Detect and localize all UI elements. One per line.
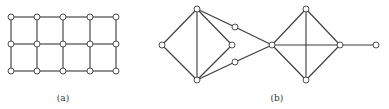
figure-a-grid-graph: (a) bbox=[8, 14, 119, 103]
graph-node bbox=[194, 6, 200, 12]
graph-node bbox=[232, 24, 238, 30]
graph-node bbox=[8, 14, 14, 20]
graph-edge bbox=[306, 45, 340, 80]
graph-edge bbox=[235, 45, 272, 62]
graph-node bbox=[87, 68, 93, 74]
graph-node bbox=[194, 77, 200, 83]
graph-node bbox=[34, 14, 40, 20]
figure-a-caption: (a) bbox=[57, 93, 69, 103]
graph-node bbox=[113, 41, 119, 47]
graph-node bbox=[113, 68, 119, 74]
graph-node bbox=[60, 41, 66, 47]
graph-node bbox=[373, 42, 379, 48]
graph-node bbox=[87, 41, 93, 47]
graph-edge bbox=[235, 27, 272, 45]
graph-node bbox=[34, 41, 40, 47]
graph-node bbox=[34, 68, 40, 74]
graph-edge bbox=[162, 9, 197, 45]
graph-edge bbox=[197, 9, 235, 27]
graph-edge bbox=[197, 9, 232, 45]
graph-edge bbox=[197, 45, 232, 80]
graph-node bbox=[232, 59, 238, 65]
graph-node bbox=[87, 14, 93, 20]
graph-node bbox=[60, 14, 66, 20]
graph-node bbox=[60, 68, 66, 74]
graph-node bbox=[229, 42, 235, 48]
graph-edge bbox=[272, 9, 306, 45]
graph-node bbox=[337, 42, 343, 48]
graph-edge bbox=[162, 45, 197, 80]
graph-edge bbox=[306, 9, 340, 45]
graph-node bbox=[159, 42, 165, 48]
graph-node bbox=[8, 68, 14, 74]
figure-b-network-graph: (b) bbox=[159, 6, 379, 103]
graph-node bbox=[269, 42, 275, 48]
graph-node bbox=[303, 6, 309, 12]
graph-edge bbox=[272, 45, 306, 80]
graph-edge bbox=[197, 62, 235, 80]
figure-b-caption: (b) bbox=[271, 93, 284, 103]
graph-diagram-canvas: (a) (b) bbox=[0, 0, 389, 109]
graph-node bbox=[303, 77, 309, 83]
graph-node bbox=[113, 14, 119, 20]
graph-node bbox=[8, 41, 14, 47]
